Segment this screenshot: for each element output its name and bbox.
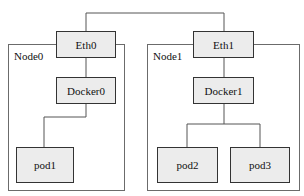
- docker1-bridge-box: Docker1: [193, 77, 254, 104]
- link-eth0-eth1: [86, 13, 224, 31]
- eth1-interface-box: Eth1: [193, 31, 254, 58]
- docker0-bridge-box: Docker0: [56, 77, 116, 104]
- pod3-box: pod3: [230, 147, 290, 183]
- eth0-interface-box: Eth0: [56, 31, 116, 58]
- diagram-canvas: Node0 Node1 Eth0 Docker0 pod1 Eth1 Docke…: [0, 0, 304, 196]
- pod2-box: pod2: [157, 147, 218, 183]
- pod1-box: pod1: [16, 147, 74, 183]
- node0-label: Node0: [14, 51, 43, 62]
- node1-label: Node1: [153, 51, 182, 62]
